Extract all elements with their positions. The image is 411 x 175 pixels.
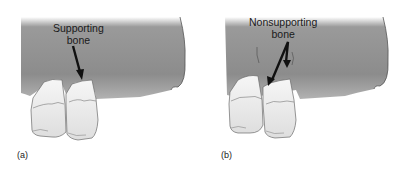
panel-label-b: (b): [221, 150, 232, 160]
callout-line-1: Supporting: [53, 22, 104, 34]
dental-figure: Supporting bone (a): [0, 0, 411, 175]
callout-nonsupporting-bone: Nonsupporting bone: [249, 16, 317, 40]
panel-label-a: (a): [17, 150, 28, 160]
panel-b-nonsupporting-bone: Nonsupporting bone (b): [200, 0, 405, 175]
callout-line-1: Nonsupporting: [249, 16, 317, 28]
tooth-right: [66, 80, 98, 140]
tooth-right: [263, 79, 296, 138]
panel-a-supporting-bone: Supporting bone (a): [0, 0, 205, 175]
callout-line-2: bone: [249, 28, 317, 40]
callout-supporting-bone: Supporting bone: [53, 22, 104, 46]
callout-line-2: bone: [53, 34, 104, 46]
